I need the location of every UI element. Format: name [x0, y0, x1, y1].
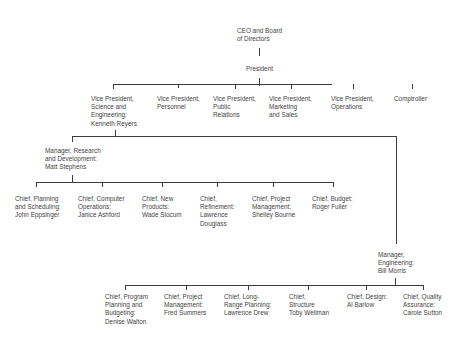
node-chief-planning-scheduling: Chief, Planning and Scheduling: John Epp…: [15, 195, 61, 220]
node-vp-marketing-sales: Vice President, Marketing and Sales: [269, 95, 312, 120]
connector-eng-chiefs-bar: [125, 285, 424, 286]
connector-eng-down: [395, 278, 396, 285]
tick-rd1: [36, 182, 37, 187]
node-chief-quality-assurance: Chief, Quality Assurance: Carole Sutton: [403, 293, 442, 318]
node-vp-science-engineering: Vice President, Science and Engineering:…: [91, 95, 137, 128]
node-vp-operations: Vice President, Operations: [331, 95, 374, 111]
tick-en1: [125, 285, 126, 290]
connector-rd-chiefs-bar: [36, 182, 334, 183]
node-chief-computer-operations: Chief, Computer Operations: Janice Ashfo…: [78, 195, 125, 220]
tick-rd4: [217, 182, 218, 187]
tick-en6: [423, 285, 424, 290]
node-chief-program-planning: Chief, Program Planning and Budgeting: D…: [105, 293, 148, 326]
tick-vp-personnel: [178, 84, 179, 88]
connector-vp-bar: [113, 84, 332, 85]
node-president: President: [246, 65, 273, 73]
node-chief-long-range-planning: Chief, Long- Range Planning: Lawrence Dr…: [224, 293, 271, 318]
tick-en2: [186, 285, 187, 290]
node-vp-public-relations: Vice President, Public Relations: [213, 95, 256, 120]
node-ceo-board: CEO and Board of Directors: [237, 27, 282, 43]
tick-rd5: [273, 182, 274, 187]
connector-rd-down: [72, 175, 73, 182]
tick-rd6: [333, 182, 334, 187]
tick-vp-science: [113, 84, 114, 89]
node-comptroller: Comptroller: [394, 95, 427, 103]
tick-vp-operations: [353, 84, 354, 89]
tick-en4: [308, 285, 309, 290]
tick-rd3: [162, 182, 163, 187]
tick-rd2: [102, 182, 103, 187]
tick-en3: [248, 285, 249, 290]
connector-ceo-president: [259, 48, 260, 56]
connector-manager-eng: [396, 136, 397, 244]
node-chief-budget: Chief, Budget: Roger Fuller: [312, 195, 353, 211]
tick-vp-pr: [235, 84, 236, 89]
node-manager-rd: Manager, Research and Development: Matt …: [45, 147, 101, 172]
tick-comptroller: [412, 84, 413, 89]
node-chief-refinement: Chief, Refinement: Lawrence Douglass: [200, 195, 234, 228]
node-vp-personnel: Vice President, Personnel: [157, 95, 200, 111]
connector-managers-bar: [72, 136, 397, 137]
node-chief-project-mgmt-rd: Chief, Project Management: Shelley Bourn…: [252, 195, 295, 220]
node-chief-project-mgmt-eng: Chief, Project Management: Fred Summers: [164, 293, 206, 318]
tick-vp-marketing: [291, 84, 292, 89]
node-chief-new-products: Chief, New Products: Wade Slocum: [142, 195, 182, 220]
node-chief-design: Chief, Design: Al Barlow: [347, 293, 387, 309]
tick-en5: [366, 285, 367, 290]
node-chief-structure: Chief, Structure Toby Wellman: [289, 293, 329, 318]
tick-manager-rd: [72, 136, 73, 142]
node-manager-engineering: Manager, Engineering: Bill Morris: [378, 251, 414, 276]
